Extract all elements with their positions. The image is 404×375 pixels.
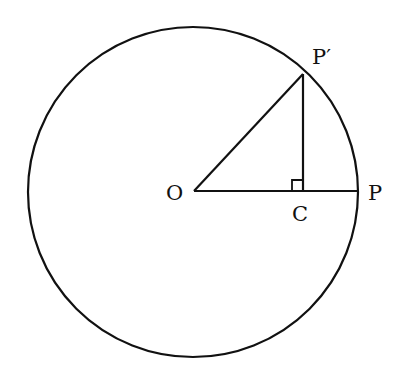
label-o: O xyxy=(166,181,183,205)
segment-op-prime xyxy=(194,74,303,191)
right-angle-marker xyxy=(292,180,303,191)
label-c: C xyxy=(292,202,308,226)
label-p: P xyxy=(368,181,382,205)
geometry-diagram: O C P P′ xyxy=(0,0,404,375)
label-p-prime: P′ xyxy=(312,45,331,69)
